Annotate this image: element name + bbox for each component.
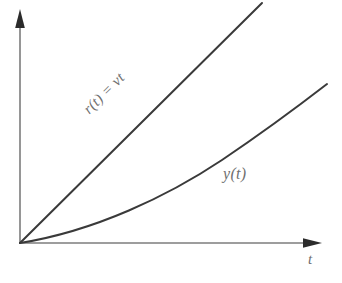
parabolic-curve-yt [20,84,327,243]
figure-plot-area [0,0,342,283]
linear-curve-rt [20,3,262,243]
x-axis-arrowhead-icon [303,238,322,248]
parabolic-curve-label: y(t) [223,166,246,182]
figure-container: r(t) = vt y(t) t [0,0,342,283]
y-axis-arrowhead-icon [15,9,25,28]
x-axis-label: t [308,252,312,267]
